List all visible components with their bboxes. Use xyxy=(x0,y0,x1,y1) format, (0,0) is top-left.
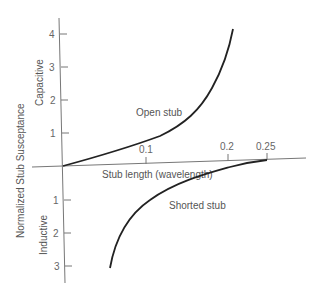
shorted-stub-label: Shorted stub xyxy=(169,200,226,211)
y-tick-neg-3: 3 xyxy=(54,261,60,272)
capacitive-label: Capacitive xyxy=(34,59,45,106)
x-tick-0.2: 0.2 xyxy=(220,141,234,152)
open-stub-label: Open stub xyxy=(136,107,183,118)
x-axis-label: Stub length (wavelength) xyxy=(102,169,213,180)
y-tick-3: 3 xyxy=(49,62,55,73)
x-tick-0.25: 0.25 xyxy=(256,141,276,152)
x-tick-0.1: 0.1 xyxy=(139,144,153,155)
y-tick-4: 4 xyxy=(49,29,55,40)
inductive-label: Inductive xyxy=(38,215,49,255)
y-tick-neg-1: 1 xyxy=(53,195,59,206)
stub-susceptance-chart: 4 3 2 1 1 2 3 0.1 0.2 0.25 Stub length (… xyxy=(0,0,324,296)
y-axis-label: Normalized Stub Susceptance xyxy=(15,103,26,238)
y-ticks-lower xyxy=(64,200,72,266)
y-tick-2: 2 xyxy=(50,95,56,106)
y-tick-neg-2: 2 xyxy=(53,228,59,239)
y-tick-1: 1 xyxy=(50,128,56,139)
y-axis xyxy=(59,18,65,283)
